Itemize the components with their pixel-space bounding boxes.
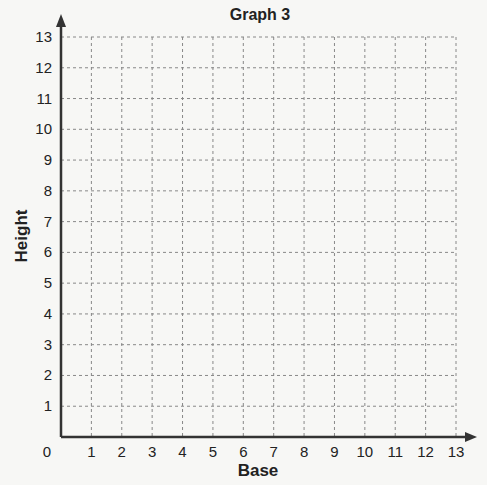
x-tick-label: 6 [239,443,247,460]
y-tick-label: 12 [35,59,52,76]
y-tick-label: 4 [44,305,52,322]
graph-chart: Graph 3 01234567891011121312345678910111… [0,0,487,485]
x-tick-label: 12 [417,443,434,460]
x-tick-label: 1 [87,443,95,460]
plot-area: 01234567891011121312345678910111213 [0,0,487,485]
x-tick-label: 4 [178,443,186,460]
y-axis-arrow-icon [56,14,66,27]
x-tick-label: 13 [448,443,465,460]
y-tick-label: 5 [44,274,52,291]
x-axis-label: Base [200,461,316,481]
x-tick-label: 3 [148,443,156,460]
x-tick-label: 5 [209,443,217,460]
y-tick-label: 7 [44,213,52,230]
y-tick-label: 10 [35,120,52,137]
x-tick-label: 9 [330,443,338,460]
y-tick-label: 11 [36,90,52,107]
y-tick-label: 13 [35,28,52,45]
x-tick-label: 0 [43,443,51,460]
y-axis-label: Height [12,186,32,286]
y-tick-label: 9 [44,151,52,168]
y-tick-label: 1 [44,397,52,414]
x-tick-label: 7 [270,443,278,460]
x-tick-label: 8 [300,443,308,460]
y-tick-label: 6 [44,243,52,260]
y-tick-label: 2 [44,366,52,383]
y-tick-label: 8 [44,182,52,199]
x-tick-label: 11 [387,443,403,460]
y-tick-label: 3 [44,336,52,353]
x-tick-label: 10 [357,443,374,460]
x-axis-arrow-icon [465,432,477,442]
x-tick-label: 2 [118,443,126,460]
